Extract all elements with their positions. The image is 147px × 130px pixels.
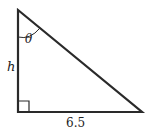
base-label: 6.5: [66, 116, 85, 130]
right-angle-marker: [18, 101, 29, 112]
triangle-diagram: θ h 6.5: [0, 0, 147, 130]
angle-theta-label: θ: [25, 32, 33, 46]
height-label: h: [7, 59, 15, 74]
right-triangle: [18, 10, 142, 112]
